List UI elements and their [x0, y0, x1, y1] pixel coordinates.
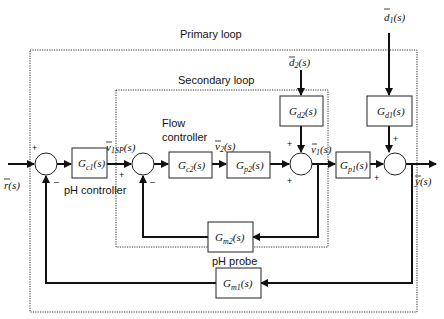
- signal-y-label: y(s): [414, 175, 432, 188]
- signal-d2-label: d2(s): [289, 56, 310, 70]
- block-gm2: Gm2(s): [208, 222, 253, 252]
- flow-controller-label-2: controller: [162, 131, 208, 143]
- block-gd2: Gd2(s): [280, 96, 323, 126]
- summing-junction-3: [290, 153, 312, 175]
- block-gc1: Gc1(s): [72, 148, 107, 178]
- sum3-plus-bottom-sign: +: [287, 176, 292, 186]
- sum1-minus-sign: –: [54, 177, 59, 187]
- sum3-plus-top-sign: +: [287, 139, 292, 149]
- signal-d1-label: d1(s): [384, 9, 405, 25]
- ph-probe-label: pH probe: [212, 255, 257, 267]
- sum1-plus-sign: +: [32, 143, 37, 153]
- block-gc2: Gc2(s): [169, 152, 212, 178]
- cascade-block-diagram: Primary loop Secondary loop Gc1(s) Gc2(s…: [0, 0, 444, 319]
- block-gp1: Gp1(s): [336, 152, 370, 178]
- sum2-minus-sign: –: [150, 177, 155, 187]
- svg-text:v2(s): v2(s): [215, 140, 236, 154]
- flow-controller-label-1: Flow: [162, 117, 185, 129]
- svg-text:v1SP(s): v1SP(s): [106, 141, 136, 155]
- ph-controller-label: pH controller: [64, 184, 127, 196]
- signal-v2-label: v2(s): [215, 140, 236, 154]
- block-gd1: Gd1(s): [367, 96, 412, 126]
- summing-junction-1: [35, 153, 57, 175]
- secondary-loop-label: Secondary loop: [178, 74, 254, 86]
- block-gm1: Gm1(s): [216, 268, 261, 298]
- sum4-plus-top-sign: +: [393, 134, 398, 144]
- sum4-plus-left-sign: +: [374, 173, 379, 183]
- wire-y-gm1: [261, 164, 412, 283]
- svg-text:d1(s): d1(s): [384, 11, 405, 25]
- svg-text:r(s): r(s): [4, 179, 20, 192]
- signal-r-label: r(s): [4, 179, 20, 192]
- signal-v1sp-label: v1SP(s): [106, 141, 136, 155]
- summing-junction-4: [384, 153, 406, 175]
- signal-v1-label: v1(s): [311, 143, 332, 157]
- summing-junction-2: [132, 153, 154, 175]
- svg-text:y(s): y(s): [414, 175, 432, 188]
- block-gp2: Gp2(s): [227, 152, 270, 178]
- svg-text:d2(s): d2(s): [289, 56, 310, 70]
- svg-text:v1(s): v1(s): [311, 143, 332, 157]
- sum2-plus-sign: +: [119, 170, 124, 180]
- primary-loop-label: Primary loop: [180, 28, 242, 40]
